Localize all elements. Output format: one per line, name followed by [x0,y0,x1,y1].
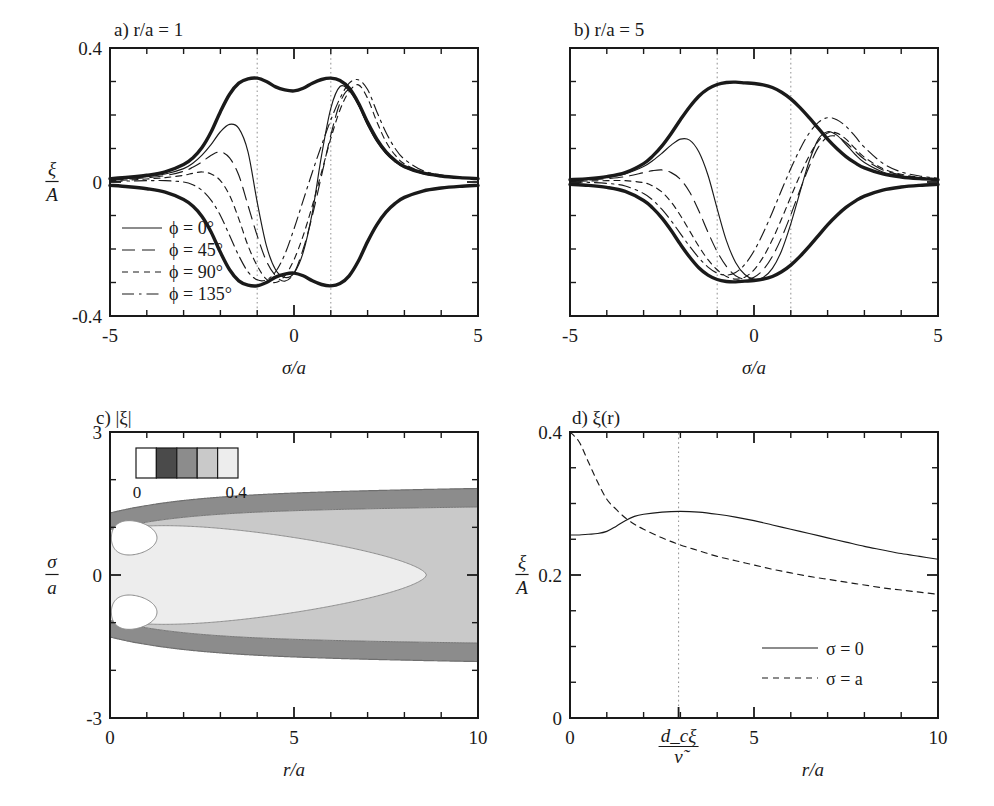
panel-a-curve-3 [110,90,478,281]
special-tick-denominator: ν̃ [674,746,690,767]
figure-panel-grid: a) r/a = 1-5050.40-0.4σ/aξAϕ = 0°ϕ = 45°… [0,0,994,806]
colorbar-max-label: 0.4 [225,483,247,502]
panel-d-xtick-0: 0 [565,727,575,748]
panel-d-frame [570,432,938,718]
colorbar-swatch-0 [136,448,156,478]
panel-d-curve-0 [570,511,938,559]
panel-a-curve-2 [110,86,478,278]
panel-b: b) r/a = 5-505σ/a [562,19,943,378]
colorbar-swatch-3 [197,448,217,478]
panel-a-ylabel-numerator: ξ [48,158,57,179]
panel-d-legend-label-1: σ = a [826,669,863,689]
panel-b-curve-5 [570,118,938,276]
panel-d-ylabel: ξA [514,551,528,598]
panel-a-ylabel-denominator: A [44,184,58,205]
panel-d-xlabel: r/a [802,759,824,780]
panel-a-title: a) r/a = 1 [114,19,183,41]
colorbar-min-label: 0 [133,483,142,502]
panel-b-xtick-2: 5 [933,325,943,346]
panel-a-xtick-2: 5 [473,325,483,346]
panel-a-xtick-0: -5 [102,325,118,346]
panel-c-xlabel: r/a [283,759,305,780]
panel-b-curve-1 [570,184,938,282]
special-tick-numerator: d_cξ [661,725,697,746]
panel-a-ylabel: ξA [44,158,58,205]
panel-c-ylabel-numerator: σ [47,551,57,572]
panel-d: d) ξ(r)05100.40.20ξAd_cξν̃r/aσ = 0σ = a [514,407,947,780]
panel-a-curve-5 [110,79,478,280]
panel-b-curve-3 [570,136,938,279]
panel-a-legend-label-0: ϕ = 0° [169,218,214,238]
panel-a-xtick-1: 0 [289,325,299,346]
panel-c-xtick-2: 10 [469,727,488,748]
colorbar-swatch-2 [177,448,197,478]
panel-b-frame [570,48,938,316]
panel-d-xtick-2: 10 [929,727,948,748]
panel-c-contours [110,488,478,661]
panel-c-xtick-1: 5 [289,727,299,748]
colorbar-swatch-1 [156,448,176,478]
panel-d-ylabel-denominator: A [514,577,528,598]
colorbar-swatch-4 [218,448,238,478]
panel-d-special-tick-label: d_cξν̃ [659,725,699,767]
panel-b-title: b) r/a = 5 [574,19,644,41]
panel-b-xtick-0: -5 [562,325,578,346]
panel-a-legend-label-3: ϕ = 135° [169,284,232,304]
panel-a-xlabel: σ/a [282,357,306,378]
panel-b-curve-0 [570,82,938,180]
panel-d-curve-1 [570,432,938,594]
panel-c: c) |ξ|051030-3r/aσa00.4 [45,407,487,780]
panel-a-legend-label-1: ϕ = 45° [169,240,223,260]
panel-a-ytick-2: -0.4 [72,306,103,327]
panel-d-title: d) ξ(r) [572,407,620,429]
panel-d-xtick-1: 5 [749,727,759,748]
panel-d-ytick-2: 0 [553,708,563,729]
panel-d-ytick-1: 0.2 [538,565,562,586]
panel-a-ytick-1: 0 [93,172,103,193]
panel-a-ytick-0: 0.4 [78,38,102,59]
panel-c-colorbar[interactable]: 00.4 [133,448,247,502]
panel-c-ytick-1: 0 [93,565,103,586]
panel-a-curve-0 [110,78,478,179]
figure-svg: a) r/a = 1-5050.40-0.4σ/aξAϕ = 0°ϕ = 45°… [0,0,994,806]
panel-c-ylabel-denominator: a [47,577,57,598]
panel-c-ytick-0: 3 [93,422,103,443]
panel-d-ylabel-numerator: ξ [518,551,527,572]
panel-b-xtick-1: 0 [749,325,759,346]
panel-b-xlabel: σ/a [742,357,766,378]
panel-a-frame [110,48,478,316]
panel-c-xtick-0: 0 [105,727,115,748]
panel-a-curve-4 [110,85,478,283]
panel-b-curve-4 [570,132,938,279]
panel-d-ytick-0: 0.4 [538,422,562,443]
panel-c-ytick-2: -3 [86,708,102,729]
panel-a-legend-label-2: ϕ = 90° [169,262,223,282]
panel-d-legend-label-0: σ = 0 [826,639,864,659]
panel-b-curve-2 [570,132,938,280]
panel-c-ylabel: σa [45,551,58,598]
panel-a: a) r/a = 1-5050.40-0.4σ/aξAϕ = 0°ϕ = 45°… [44,19,483,378]
panel-a-curve-1 [110,185,478,286]
